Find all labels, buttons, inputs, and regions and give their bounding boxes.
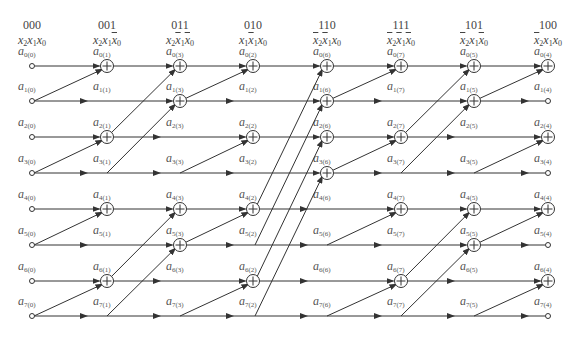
- butterfly-diagonal: [180, 284, 248, 316]
- terminal-node-icon: [30, 314, 35, 319]
- butterfly-diagonal: [180, 212, 248, 245]
- butterfly-diagonal: [327, 212, 396, 245]
- terminal-node-icon: [30, 64, 35, 69]
- butterfly-diagonal: [401, 212, 469, 281]
- butterfly-diagonal: [107, 104, 175, 173]
- butterfly-graph: [0, 0, 570, 337]
- butterfly-diagonal: [107, 248, 175, 316]
- terminal-node-icon: [30, 99, 35, 104]
- butterfly-diagonal: [34, 140, 102, 173]
- terminal-node-icon: [30, 171, 35, 176]
- butterfly-diagonal: [255, 104, 322, 245]
- butterfly-diagonal: [34, 284, 102, 316]
- butterfly-diagonal: [327, 140, 396, 173]
- butterfly-diagonal: [401, 248, 469, 316]
- butterfly-diagonal: [474, 212, 543, 245]
- butterfly-diagonal: [474, 69, 543, 101]
- terminal-node-icon: [546, 314, 551, 319]
- terminal-node-icon: [546, 243, 551, 248]
- terminal-node-icon: [546, 171, 551, 176]
- terminal-node-icon: [30, 135, 35, 140]
- terminal-node-icon: [30, 243, 35, 248]
- butterfly-diagonal: [255, 176, 322, 316]
- butterfly-diagonal: [107, 212, 175, 281]
- butterfly-diagonal: [327, 284, 396, 316]
- butterfly-diagonal: [401, 104, 469, 173]
- butterfly-diagonal: [474, 140, 543, 173]
- terminal-node-icon: [546, 99, 551, 104]
- butterfly-diagonal: [180, 69, 248, 101]
- butterfly-diagonal: [180, 140, 248, 173]
- butterfly-diagonal: [474, 284, 543, 316]
- terminal-node-icon: [30, 279, 35, 284]
- butterfly-diagonal: [107, 69, 175, 137]
- butterfly-diagonal: [327, 69, 396, 101]
- butterfly-diagonal: [255, 69, 322, 209]
- terminal-node-icon: [30, 207, 35, 212]
- butterfly-diagonal: [34, 212, 102, 245]
- butterfly-diagonal: [34, 69, 102, 101]
- butterfly-diagonal: [255, 140, 322, 281]
- butterfly-diagonal: [401, 69, 469, 137]
